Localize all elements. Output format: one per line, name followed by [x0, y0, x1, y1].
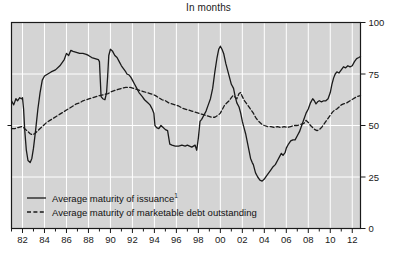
x-tick-label: 88 [83, 234, 94, 245]
x-tick-label: 96 [171, 234, 182, 245]
legend-label-2: Average maturity of marketable debt outs… [52, 207, 257, 218]
x-tick-label: 86 [61, 234, 72, 245]
x-tick-label: 82 [17, 234, 28, 245]
x-tick-label: 04 [259, 234, 270, 245]
x-tick-label: 02 [237, 234, 248, 245]
x-tick-label: 90 [105, 234, 116, 245]
x-tick-label: 98 [193, 234, 204, 245]
chart-plot: 82848688909294969800020406081012 0255075… [0, 0, 417, 260]
x-tick-label: 94 [149, 234, 160, 245]
x-tick-label: 06 [281, 234, 292, 245]
legend-label-1: Average maturity of issuance1 [52, 192, 178, 204]
x-tick-label: 92 [127, 234, 138, 245]
y-tick-label: 25 [369, 172, 380, 183]
chart-figure: In months 828486889092949698000204060810… [0, 0, 417, 260]
x-axis-tick-labels: 82848688909294969800020406081012 [17, 234, 357, 245]
y-tick-label: 50 [369, 120, 380, 131]
x-tick-label: 08 [303, 234, 314, 245]
x-tick-label: 00 [215, 234, 226, 245]
y-tick-label: 75 [369, 69, 380, 80]
x-tick-label: 10 [325, 234, 336, 245]
y-tick-label: 100 [369, 17, 385, 28]
x-tick-label: 12 [347, 234, 358, 245]
x-tick-label: 84 [39, 234, 50, 245]
y-tick-label: 0 [369, 223, 374, 234]
y-axis-tick-labels: 0255075100 [369, 17, 385, 234]
legend-superscript: 1 [174, 192, 178, 199]
